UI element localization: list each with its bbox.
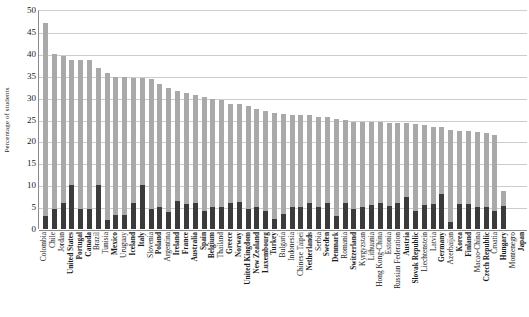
bar[interactable] (202, 97, 207, 229)
bar-column[interactable] (112, 11, 121, 229)
bar-column[interactable] (349, 11, 358, 229)
bar[interactable] (351, 122, 356, 229)
bar-column[interactable] (261, 11, 270, 229)
bar[interactable] (413, 124, 418, 229)
bar[interactable] (175, 91, 180, 229)
bar[interactable] (298, 115, 303, 229)
bar[interactable] (263, 111, 268, 229)
bar-column[interactable] (120, 11, 129, 229)
bar[interactable] (501, 191, 506, 229)
bar-column[interactable] (446, 11, 455, 229)
bar[interactable] (246, 106, 251, 230)
bar-column[interactable] (499, 11, 508, 229)
bar-column[interactable] (103, 11, 112, 229)
bar-column[interactable] (341, 11, 350, 229)
bar[interactable] (157, 84, 162, 229)
bar[interactable] (290, 115, 295, 229)
bar[interactable] (369, 122, 374, 229)
bar-column[interactable] (226, 11, 235, 229)
bar-column[interactable] (323, 11, 332, 229)
bar-column[interactable] (402, 11, 411, 229)
bar-column[interactable] (517, 11, 526, 229)
bar[interactable] (325, 117, 330, 229)
bar-column[interactable] (76, 11, 85, 229)
bar-column[interactable] (235, 11, 244, 229)
bar-column[interactable] (173, 11, 182, 229)
bar-column[interactable] (270, 11, 279, 229)
bar[interactable] (43, 23, 48, 229)
bar-column[interactable] (50, 11, 59, 229)
bar[interactable] (422, 125, 427, 229)
bar-column[interactable] (305, 11, 314, 229)
bar[interactable] (431, 127, 436, 229)
bar-column[interactable] (41, 11, 50, 229)
bar[interactable] (360, 122, 365, 229)
bar-column[interactable] (85, 11, 94, 229)
bar-column[interactable] (385, 11, 394, 229)
bar[interactable] (87, 60, 92, 229)
bar-column[interactable] (455, 11, 464, 229)
bar[interactable] (122, 77, 127, 229)
bar[interactable] (316, 117, 321, 229)
bar-column[interactable] (147, 11, 156, 229)
bar-column[interactable] (67, 11, 76, 229)
bar[interactable] (387, 123, 392, 229)
bar-column[interactable] (94, 11, 103, 229)
bar[interactable] (184, 93, 189, 229)
bar-column[interactable] (473, 11, 482, 229)
bar[interactable] (193, 95, 198, 229)
bar[interactable] (105, 73, 110, 229)
bar[interactable] (378, 122, 383, 229)
bar[interactable] (113, 77, 118, 229)
bar-column[interactable] (182, 11, 191, 229)
bar-column[interactable] (208, 11, 217, 229)
bar-column[interactable] (59, 11, 68, 229)
bar[interactable] (254, 109, 259, 229)
bar-column[interactable] (217, 11, 226, 229)
bar[interactable] (61, 56, 66, 229)
bar[interactable] (466, 131, 471, 229)
bar[interactable] (69, 60, 74, 229)
bar-column[interactable] (394, 11, 403, 229)
bar[interactable] (484, 133, 489, 229)
bar[interactable] (457, 131, 462, 229)
bar-column[interactable] (138, 11, 147, 229)
bar[interactable] (131, 78, 136, 229)
bar[interactable] (475, 132, 480, 229)
bar[interactable] (492, 135, 497, 229)
bar-column[interactable] (429, 11, 438, 229)
bar-column[interactable] (411, 11, 420, 229)
bar-column[interactable] (464, 11, 473, 229)
bar-column[interactable] (490, 11, 499, 229)
bar[interactable] (96, 68, 101, 229)
bar-column[interactable] (129, 11, 138, 229)
bar[interactable] (448, 130, 453, 229)
bar[interactable] (166, 88, 171, 229)
bar-column[interactable] (164, 11, 173, 229)
bar[interactable] (140, 78, 145, 229)
bar-column[interactable] (314, 11, 323, 229)
bar-column[interactable] (482, 11, 491, 229)
bar-column[interactable] (288, 11, 297, 229)
bar-column[interactable] (191, 11, 200, 229)
bar[interactable] (228, 104, 233, 229)
bar[interactable] (219, 100, 224, 229)
bar-column[interactable] (332, 11, 341, 229)
bar[interactable] (439, 127, 444, 229)
bar-column[interactable] (420, 11, 429, 229)
bar-column[interactable] (279, 11, 288, 229)
bar[interactable] (237, 104, 242, 229)
bar[interactable] (52, 54, 57, 229)
bar[interactable] (404, 123, 409, 229)
bar-column[interactable] (156, 11, 165, 229)
bar[interactable] (343, 120, 348, 229)
bar[interactable] (307, 115, 312, 229)
bar-column[interactable] (244, 11, 253, 229)
bar-column[interactable] (376, 11, 385, 229)
bar[interactable] (149, 79, 154, 229)
bar[interactable] (210, 99, 215, 229)
bar-column[interactable] (297, 11, 306, 229)
bar-column[interactable] (508, 11, 517, 229)
bar[interactable] (78, 60, 83, 229)
bar[interactable] (281, 114, 286, 229)
